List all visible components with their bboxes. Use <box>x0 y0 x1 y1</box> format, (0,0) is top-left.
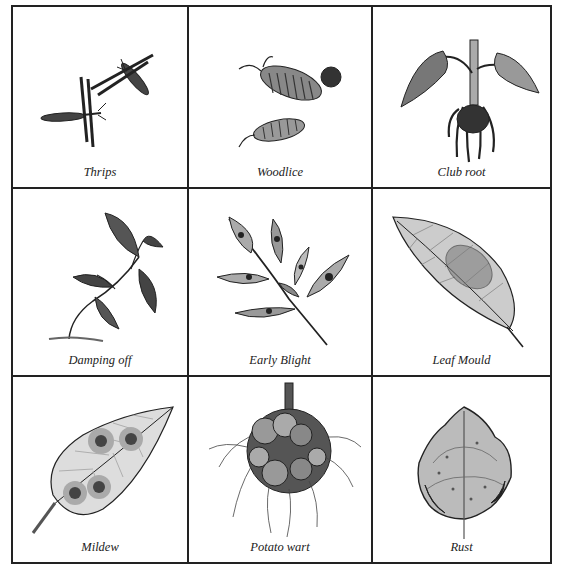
label-thrips: Thrips <box>13 165 187 180</box>
cell-woodlice: Woodlice <box>189 7 373 189</box>
cell-leaf-mould: Leaf Mould <box>373 189 550 377</box>
label-leaf-mould: Leaf Mould <box>373 353 550 368</box>
woodlice-icon <box>189 7 371 161</box>
label-early-blight: Early Blight <box>189 353 371 368</box>
label-damping-off: Damping off <box>13 353 187 368</box>
thrips-icon <box>13 7 187 161</box>
pest-disease-grid: Thrips <box>11 5 552 564</box>
label-woodlice: Woodlice <box>189 165 371 180</box>
damping-off-icon <box>13 189 187 349</box>
club-root-icon <box>373 7 550 161</box>
rust-icon <box>373 377 550 536</box>
potato-wart-icon <box>189 377 371 536</box>
label-club-root: Club root <box>373 165 550 180</box>
cell-thrips: Thrips <box>13 7 189 189</box>
cell-mildew: Mildew <box>13 377 189 562</box>
cell-club-root: Club root <box>373 7 550 189</box>
cell-early-blight: Early Blight <box>189 189 373 377</box>
cell-rust: Rust <box>373 377 550 562</box>
label-rust: Rust <box>373 540 550 555</box>
cell-potato-wart: Potato wart <box>189 377 373 562</box>
cell-damping-off: Damping off <box>13 189 189 377</box>
mildew-icon <box>13 377 187 536</box>
label-mildew: Mildew <box>13 540 187 555</box>
label-potato-wart: Potato wart <box>189 540 371 555</box>
leaf-mould-icon <box>373 189 550 349</box>
early-blight-icon <box>189 189 371 349</box>
